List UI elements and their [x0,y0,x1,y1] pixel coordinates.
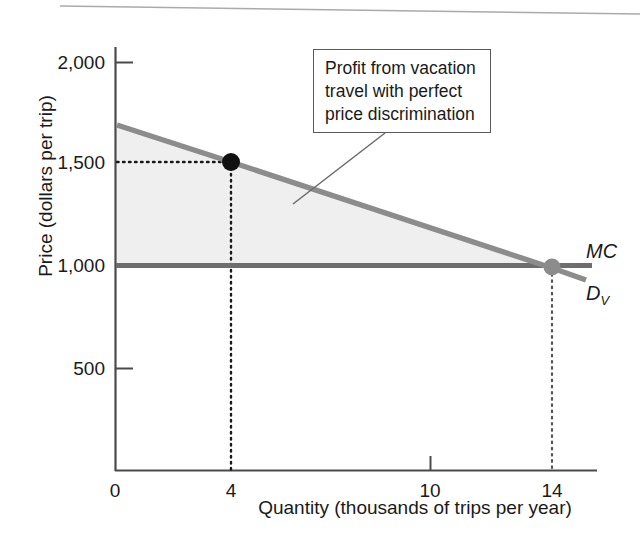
annotation-line-1: Profit from vacation [325,57,481,80]
economics-chart-figure: 2,000 1,500 1,000 500 0 4 10 14 Price (d… [0,0,640,542]
y-tick-label-1500: 1,500 [20,152,105,174]
y-tick-label-2000: 2,000 [20,52,105,74]
y-tick-label-1000: 1,000 [20,255,105,277]
annotation-line-2: travel with perfect [325,80,481,103]
demand-curve-label-main: D [586,282,600,304]
scan-artifact-line [60,6,640,14]
profit-annotation-box: Profit from vacation travel with perfect… [313,49,491,133]
demand-curve-label: DV [586,282,609,308]
mc-curve-label: MC [586,240,617,263]
y-axis-title: Price (dollars per trip) [35,61,57,311]
annotation-leader-line [293,133,385,204]
demand-curve-label-subscript: V [600,293,609,308]
demand-mc-intersection-marker [544,259,561,276]
x-axis-title: Quantity (thousands of trips per year) [195,497,635,519]
vacation-price-point-marker [222,153,240,171]
annotation-line-3: price discrimination [325,103,481,126]
profit-annotation-text: Profit from vacation travel with perfect… [325,57,481,126]
y-tick-label-500: 500 [20,358,105,380]
x-tick-label-0: 0 [98,480,132,502]
